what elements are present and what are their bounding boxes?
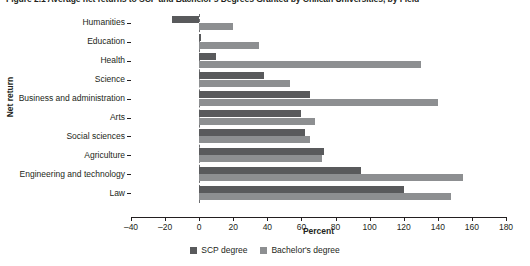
x-axis-tick [233,217,234,221]
legend-label: Bachelor's degree [271,245,339,255]
y-axis-category-label: Health [100,55,125,65]
page-title: Figure 2.1 Average net returns to SCP an… [6,0,526,4]
chart-category-row: Law [131,184,506,203]
y-axis-tick [127,193,131,194]
y-axis-tick [127,99,131,100]
bar-scp-degree [172,16,199,23]
plot-area: –40–20020406080100120140160180 Humanitie… [131,14,506,203]
y-axis-title: Net return [5,62,15,132]
bar-bachelors-degree [199,136,310,143]
legend-entry[interactable]: Bachelor's degree [260,245,339,255]
y-axis-category-label: Law [109,188,125,198]
y-axis-tick [127,174,131,175]
chart-category-row: Education [131,33,506,52]
bar-bachelors-degree [199,99,438,106]
legend-swatch-icon [190,247,197,254]
bar-bachelors-degree [199,61,421,68]
chart-category-row: Business and administration [131,90,506,109]
bar-bachelors-degree [199,118,315,125]
x-axis-tick [131,217,132,221]
chart-category-row: Social sciences [131,127,506,146]
y-axis-category-label: Business and administration [19,93,125,103]
bar-bachelors-degree [199,23,233,30]
x-axis-tick [370,217,371,221]
y-axis-tick [127,23,131,24]
bar-bachelors-degree [199,42,259,49]
y-axis-tick [127,155,131,156]
bar-scp-degree [199,72,264,79]
bar-scp-degree [199,167,361,174]
y-axis-tick [127,136,131,137]
chart-category-row: Arts [131,109,506,128]
y-axis-category-label: Education [87,36,125,46]
x-axis-tick [267,217,268,221]
legend-entry[interactable]: SCP degree [190,245,247,255]
bar-bachelors-degree [199,174,463,181]
figure-container: Figure 2.1 Average net returns to SCP an… [0,0,530,266]
x-axis-tick [165,217,166,221]
y-axis-tick [127,118,131,119]
y-axis-category-label: Engineering and technology [20,169,125,179]
x-axis-line [131,217,506,218]
y-axis-category-label: Arts [110,112,125,122]
chart-category-row: Humanities [131,14,506,33]
bar-bachelors-degree [199,193,451,200]
x-axis-tick [472,217,473,221]
y-axis-tick [127,42,131,43]
chart-legend: SCP degreeBachelor's degree [0,245,530,255]
x-axis-tick [404,217,405,221]
bar-scp-degree [199,110,301,117]
bar-scp-degree [199,53,216,60]
x-axis-tick [301,217,302,221]
y-axis-tick [127,61,131,62]
bar-scp-degree [199,91,310,98]
y-axis-category-label: Social sciences [66,131,125,141]
y-axis-category-label: Science [95,74,125,84]
chart-category-row: Agriculture [131,146,506,165]
legend-label: SCP degree [201,245,247,255]
y-axis-category-label: Humanities [82,17,125,27]
chart-category-row: Science [131,71,506,90]
legend-swatch-icon [260,247,267,254]
chart-category-row: Health [131,52,506,71]
y-axis-category-label: Agriculture [84,150,125,160]
x-axis-title: Percent [131,226,506,236]
x-axis-tick [438,217,439,221]
x-axis-tick [506,217,507,221]
x-axis-tick [199,217,200,221]
bar-scp-degree [199,186,404,193]
chart-category-row: Engineering and technology [131,165,506,184]
bar-scp-degree [199,148,323,155]
bar-scp-degree [199,34,201,41]
bar-bachelors-degree [199,155,322,162]
y-axis-tick [127,80,131,81]
bar-bachelors-degree [199,80,289,87]
x-axis-tick [336,217,337,221]
bar-scp-degree [199,129,305,136]
